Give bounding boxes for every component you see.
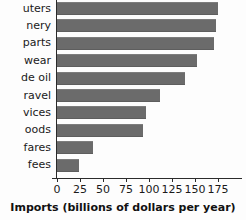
plot-area xyxy=(57,0,218,178)
category-label: de oil xyxy=(21,71,51,84)
bar-row xyxy=(57,106,218,119)
x-axis-tick xyxy=(218,178,219,182)
x-axis-tick xyxy=(80,178,81,182)
bar-row xyxy=(57,37,218,50)
category-label: oods xyxy=(25,123,51,136)
bar xyxy=(57,89,160,102)
category-label: nery xyxy=(26,19,51,32)
bar-row xyxy=(57,141,218,154)
category-label: parts xyxy=(23,36,51,49)
x-axis-tick-label: 150 xyxy=(185,183,206,196)
bar xyxy=(57,19,216,32)
x-axis-tick-label: 125 xyxy=(162,183,183,196)
x-axis-tick xyxy=(103,178,104,182)
category-label: ravel xyxy=(23,89,51,102)
category-label: wear xyxy=(24,54,51,67)
x-axis-tick-label: 0 xyxy=(54,183,61,196)
category-label: vices xyxy=(23,106,51,119)
x-axis-tick-label: 75 xyxy=(119,183,133,196)
category-label: fares xyxy=(24,141,51,154)
category-label: fees xyxy=(28,158,51,171)
bar-row xyxy=(57,72,218,85)
bar-row xyxy=(57,19,218,32)
bar-row xyxy=(57,159,218,172)
bar xyxy=(57,54,197,67)
x-axis-tick-label: 100 xyxy=(139,183,160,196)
bar-row xyxy=(57,89,218,102)
x-axis-tick-label: 50 xyxy=(96,183,110,196)
x-axis-tick xyxy=(149,178,150,182)
x-axis-tick xyxy=(57,178,58,182)
bar xyxy=(57,72,185,85)
x-axis-tick-label: 25 xyxy=(73,183,87,196)
bar xyxy=(57,37,214,50)
x-axis-tick xyxy=(126,178,127,182)
bar xyxy=(57,124,143,137)
bar-row xyxy=(57,54,218,67)
x-axis-tick xyxy=(172,178,173,182)
x-axis-title: Imports (billions of dollars per year) xyxy=(0,201,246,214)
bar-row xyxy=(57,2,218,15)
category-axis-labels: utersnerypartswearde oilravelvicesoodsfa… xyxy=(0,0,53,178)
y-axis-line xyxy=(56,0,57,178)
category-label: uters xyxy=(23,2,51,15)
bar-chart: utersnerypartswearde oilravelvicesoodsfa… xyxy=(0,0,246,220)
bar xyxy=(57,159,79,172)
bar xyxy=(57,141,93,154)
bar xyxy=(57,2,218,15)
bar-row xyxy=(57,124,218,137)
bar xyxy=(57,106,146,119)
x-axis-tick-label: 175 xyxy=(208,183,229,196)
x-axis-tick xyxy=(195,178,196,182)
